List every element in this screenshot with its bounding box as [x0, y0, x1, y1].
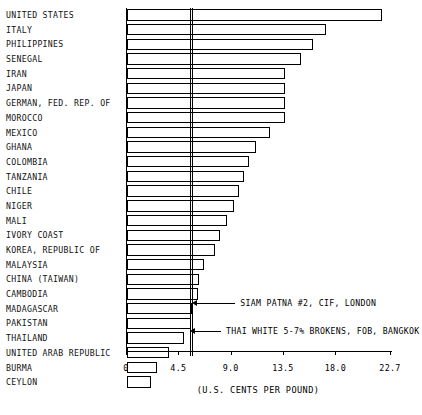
category-label: CHILE: [6, 184, 124, 199]
bar: [127, 171, 244, 182]
bar: [127, 185, 239, 196]
bar: [127, 83, 285, 94]
category-label: MEXICO: [6, 126, 124, 141]
bar: [127, 274, 199, 285]
x-axis-tick: [335, 351, 336, 355]
category-label: IVORY COAST: [6, 228, 124, 243]
x-axis-tick: [126, 351, 127, 355]
x-axis-tick-label: 4.5: [170, 363, 186, 373]
bar: [127, 53, 301, 64]
category-label: MALAYSIA: [6, 258, 124, 273]
x-axis-tick-label: 9.0: [223, 363, 239, 373]
x-axis-label: (U.S. CENTS PER POUND): [126, 385, 390, 395]
x-axis-tick-label: 13.5: [272, 363, 293, 373]
x-axis-tick: [178, 351, 179, 355]
category-label: PHILIPPINES: [6, 37, 124, 52]
annotation-arrow-line: [195, 331, 221, 332]
category-label: KOREA, REPUBLIC OF: [6, 243, 124, 258]
bar-row: [127, 184, 390, 199]
category-label: UNITED STATES: [6, 8, 124, 23]
bar: [127, 127, 270, 138]
bar-row: [127, 37, 390, 52]
category-label: GHANA: [6, 140, 124, 155]
x-axis-tick: [231, 351, 232, 355]
bar-row: [127, 361, 390, 376]
bar: [127, 97, 285, 108]
category-label: MOROCCO: [6, 111, 124, 126]
bar-row: [127, 126, 390, 141]
bar-row: [127, 52, 390, 67]
bar-row: [127, 67, 390, 82]
category-label: COLOMBIA: [6, 155, 124, 170]
category-label: BURMA: [6, 361, 124, 376]
category-label: THAILAND: [6, 331, 124, 346]
x-axis-tick-label: 22.7: [379, 363, 400, 373]
bar: [127, 24, 326, 35]
bar-row: [127, 8, 390, 23]
x-axis-tick-label: 18.0: [325, 363, 346, 373]
category-label: CHINA (TAIWAN): [6, 272, 124, 287]
bar-row: [127, 140, 390, 155]
bar: [127, 215, 227, 226]
bar-row: [127, 258, 390, 273]
category-label: IRAN: [6, 67, 124, 82]
bar-row: [127, 81, 390, 96]
bar: [127, 332, 184, 343]
bar-row: [127, 272, 390, 287]
bar: [127, 68, 285, 79]
category-label: ITALY: [6, 23, 124, 38]
category-label: UNITED ARAB REPUBLIC: [6, 346, 124, 361]
bar: [127, 200, 234, 211]
category-label: JAPAN: [6, 81, 124, 96]
annotation-label: SIAM PATNA #2, CIF, LONDON: [240, 298, 376, 308]
category-label: TANZANIA: [6, 170, 124, 185]
bar-row: [127, 214, 390, 229]
bar-row: [127, 155, 390, 170]
reference-line: [190, 8, 191, 356]
category-label: CEYLON: [6, 375, 124, 390]
bar: [127, 288, 198, 299]
x-axis-tick-label: 0: [123, 363, 128, 373]
bar: [127, 230, 220, 241]
bar: [127, 156, 249, 167]
bar-row: [127, 243, 390, 258]
bar-row: [127, 228, 390, 243]
bar: [127, 112, 285, 123]
category-label: MALI: [6, 214, 124, 229]
category-label: SENEGAL: [6, 52, 124, 67]
category-label: PAKISTAN: [6, 316, 124, 331]
bar-row: [127, 199, 390, 214]
category-label: MADAGASCAR: [6, 302, 124, 317]
category-label: NIGER: [6, 199, 124, 214]
x-axis-tick: [283, 351, 284, 355]
category-label: GERMAN, FED. REP. OF: [6, 96, 124, 111]
bar-row: [127, 96, 390, 111]
bar: [127, 9, 382, 20]
x-axis-line: [126, 351, 392, 352]
bar: [127, 347, 169, 358]
bar: [127, 303, 192, 314]
bar-row: [127, 23, 390, 38]
rice-price-bar-chart: UNITED STATESITALYPHILIPPINESSENEGALIRAN…: [0, 0, 422, 415]
annotation-arrow-line: [197, 303, 235, 304]
bar: [127, 39, 313, 50]
x-axis-tick: [390, 351, 391, 355]
bar: [127, 318, 191, 329]
bar: [127, 362, 157, 373]
bar-row: [127, 346, 390, 361]
category-label-list: UNITED STATESITALYPHILIPPINESSENEGALIRAN…: [6, 8, 124, 390]
bar-row: [127, 111, 390, 126]
annotation-label: THAI WHITE 5-7% BROKENS, FOB, BANGKOK: [226, 326, 419, 336]
bar: [127, 244, 215, 255]
category-label: CAMBODIA: [6, 287, 124, 302]
bar-row: [127, 170, 390, 185]
